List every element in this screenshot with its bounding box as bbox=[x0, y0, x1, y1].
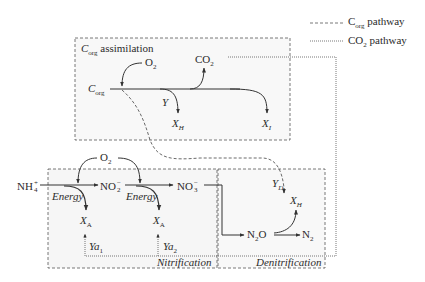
co2-label: CO2 bbox=[195, 54, 214, 67]
no2-label: NO−2 bbox=[100, 180, 121, 194]
xh-label-top: XH bbox=[172, 118, 184, 131]
legend-corg-label: Corg pathway bbox=[348, 16, 405, 29]
assimilation-title: Corg assimilation bbox=[81, 43, 153, 56]
o2-label-top: O2 bbox=[145, 57, 156, 70]
corg-label: Corg bbox=[88, 83, 105, 96]
xa-label-2: XA bbox=[153, 215, 165, 228]
nh4-label: NH+4 bbox=[17, 180, 38, 194]
no3-label: NO−3 bbox=[177, 180, 198, 194]
nitrification-title: Nitrification bbox=[157, 257, 211, 268]
o2-label-nitrification: O2 bbox=[100, 152, 111, 165]
yd-label: YD bbox=[272, 178, 283, 191]
xa-label-1: XA bbox=[80, 215, 92, 228]
denitrification-title: Denitrification bbox=[256, 257, 321, 268]
xi-label: XI bbox=[262, 118, 271, 131]
energy-label-1: Energy bbox=[52, 191, 83, 202]
y-yield-label: Y bbox=[162, 97, 168, 108]
n2-label: N2 bbox=[302, 229, 313, 242]
n2o-label: N2O bbox=[247, 229, 266, 242]
energy-label-2: Energy bbox=[126, 191, 157, 202]
ya1-label: Ya1 bbox=[89, 241, 103, 254]
legend-co2-label: CO2 pathway bbox=[348, 35, 407, 48]
xh-label-denitrification: XH bbox=[290, 195, 302, 208]
ya2-label: Ya2 bbox=[163, 241, 177, 254]
